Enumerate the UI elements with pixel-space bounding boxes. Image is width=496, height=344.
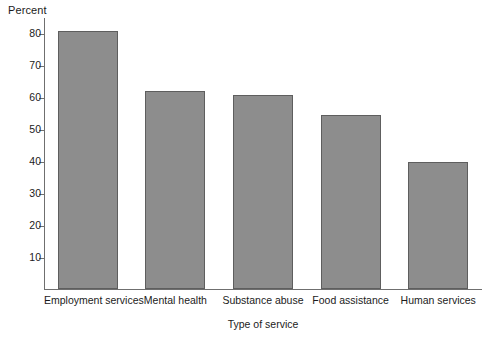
x-axis-title: Type of service <box>44 318 482 331</box>
bar-chart-figure: Percent 1020304050607080 Employment serv… <box>0 0 496 344</box>
bar <box>408 162 468 289</box>
bar <box>233 95 293 289</box>
x-category-label: Human services <box>394 294 482 307</box>
bar <box>58 31 118 289</box>
x-category-label: Substance abuse <box>219 294 307 307</box>
y-tick-label: 10 <box>29 251 41 264</box>
y-tick-label: 60 <box>29 91 41 104</box>
bar <box>321 115 381 289</box>
y-tick-label: 80 <box>29 27 41 40</box>
y-tick-label: 30 <box>29 187 41 200</box>
y-tick-label: 70 <box>29 59 41 72</box>
x-category-label: Employment services <box>44 294 132 307</box>
x-category-label: Mental health <box>132 294 220 307</box>
x-axis-line <box>44 289 482 290</box>
y-axis-line <box>44 18 45 290</box>
bar <box>145 91 205 289</box>
y-tick-label: 20 <box>29 219 41 232</box>
y-axis-title: Percent <box>8 4 47 17</box>
y-tick-label: 50 <box>29 123 41 136</box>
y-tick-label: 40 <box>29 155 41 168</box>
x-category-label: Food assistance <box>307 294 395 307</box>
plot-area: 1020304050607080 Employment servicesMent… <box>44 18 482 290</box>
